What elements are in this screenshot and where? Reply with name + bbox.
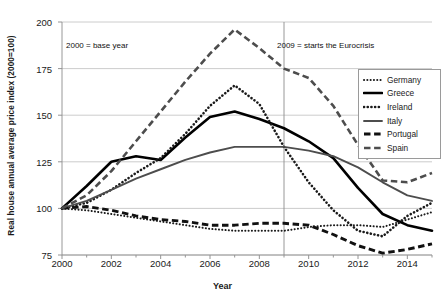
x-tick-label-2008: 2008	[249, 258, 270, 269]
x-tick-label-2004: 2004	[150, 258, 171, 269]
y-axis-title: Real house annual average price index (2…	[2, 0, 20, 270]
legend-item-greece[interactable]: Greece	[363, 87, 437, 101]
legend-swatch-spain-icon	[363, 143, 383, 153]
annotation-eurocrisis: 2009 = starts the Eurocrisis	[277, 41, 374, 50]
y-tick-label-200: 200	[26, 17, 52, 28]
chart-legend: GermanyGreeceIrelandItalyPortugalSpain	[358, 69, 441, 159]
legend-label: Italy	[387, 116, 402, 126]
legend-label: Germany	[387, 75, 421, 85]
legend-swatch-portugal-icon	[363, 129, 383, 139]
legend-swatch-italy-icon	[363, 116, 383, 126]
x-tick-label-2006: 2006	[199, 258, 220, 269]
y-tick-label-100: 100	[26, 203, 52, 214]
series-line-portugal	[62, 207, 432, 254]
legend-label: Ireland	[387, 102, 412, 112]
legend-swatch-germany-icon	[363, 75, 383, 85]
x-tick-label-2012: 2012	[347, 258, 368, 269]
x-tick-label-2014: 2014	[397, 258, 418, 269]
legend-item-spain[interactable]: Spain	[363, 141, 437, 155]
legend-item-germany[interactable]: Germany	[363, 73, 437, 87]
x-axis-title: Year	[0, 281, 445, 291]
x-axis-tick-labels: 20002002200420062008201020122014	[0, 258, 445, 274]
y-tick-label-150: 150	[26, 110, 52, 121]
x-tick-label-2010: 2010	[298, 258, 319, 269]
legend-item-ireland[interactable]: Ireland	[363, 100, 437, 114]
y-tick-label-175: 175	[26, 63, 52, 74]
legend-swatch-ireland-icon	[363, 102, 383, 112]
legend-label: Portugal	[387, 129, 418, 139]
legend-label: Greece	[387, 88, 414, 98]
legend-swatch-greece-icon	[363, 88, 383, 98]
legend-item-portugal[interactable]: Portugal	[363, 127, 437, 141]
y-tick-label-125: 125	[26, 156, 52, 167]
annotation-base-year: 2000 = base year	[66, 41, 128, 50]
legend-item-italy[interactable]: Italy	[363, 114, 437, 128]
house-price-index-chart: Real house annual average price index (2…	[0, 0, 445, 307]
legend-label: Spain	[387, 143, 408, 153]
x-tick-label-2000: 2000	[51, 258, 72, 269]
x-tick-label-2002: 2002	[101, 258, 122, 269]
